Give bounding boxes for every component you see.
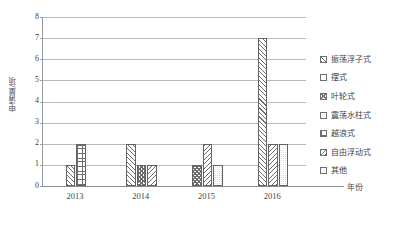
bar-chart: 申请量/项 012345678 2013201420152016 年份 振荡浮子…: [0, 0, 411, 227]
legend-item-label: 摆式: [331, 73, 347, 82]
bar: [147, 165, 157, 186]
bar: [203, 144, 213, 186]
bar: [126, 144, 136, 186]
legend-item-label: 其他: [331, 166, 347, 175]
y-axis-tick-label: 6: [22, 54, 39, 63]
bar-series-container: [43, 17, 306, 186]
legend-item-label: 越浪式: [331, 129, 355, 138]
diagonal-hatch-swatch: [320, 56, 327, 63]
legend-item-label: 振荡浮子式: [331, 55, 371, 64]
y-axis-tick-label: 7: [22, 33, 39, 42]
gridline: [43, 186, 306, 187]
grid-swatch: [320, 130, 327, 137]
y-axis-tick-mark: [40, 186, 43, 187]
plot-area: [42, 17, 305, 186]
y-axis-tick-label: 4: [22, 96, 39, 105]
bar: [137, 165, 147, 186]
x-axis-extension-line: [305, 186, 344, 187]
x-axis-tick-label: 2015: [198, 191, 215, 201]
bar: [279, 144, 289, 186]
x-axis-tick-label: 2013: [66, 191, 83, 201]
legend-item-label: 震荡水柱式: [331, 111, 371, 120]
legend: 振荡浮子式摆式叶轮式震荡水柱式越浪式自由浮动式其他: [320, 50, 408, 180]
y-axis-tick-label: 2: [22, 138, 39, 147]
crosshatch-check-swatch: [320, 93, 327, 100]
x-axis-tick-labels: 2013201420152016: [42, 191, 305, 205]
legend-item[interactable]: 振荡浮子式: [320, 50, 408, 69]
x-axis-tick-label: 2016: [264, 191, 281, 201]
y-axis-tick-labels: 012345678: [22, 0, 39, 227]
fine-dot-swatch: [320, 112, 327, 119]
legend-item[interactable]: 其他: [320, 162, 408, 181]
open-swatch: [320, 167, 327, 174]
legend-item[interactable]: 越浪式: [320, 124, 408, 143]
legend-item-label: 自由浮动式: [331, 148, 371, 157]
bar: [268, 144, 278, 186]
y-axis-tick-label: 8: [22, 12, 39, 21]
legend-item-label: 叶轮式: [331, 92, 355, 101]
y-axis-tick-label: 0: [22, 181, 39, 190]
y-axis-title: 申请量/项: [9, 77, 22, 112]
legend-item[interactable]: 震荡水柱式: [320, 106, 408, 125]
y-axis-tick-label: 5: [22, 75, 39, 84]
y-axis-tick-label: 3: [22, 117, 39, 126]
x-axis-tick-label: 2014: [132, 191, 149, 201]
bar: [76, 144, 86, 186]
legend-item[interactable]: 摆式: [320, 69, 408, 88]
bar: [258, 38, 268, 186]
bar: [66, 165, 76, 186]
x-axis-title: 年份: [347, 181, 363, 192]
light-open-swatch: [320, 74, 327, 81]
bar: [192, 165, 202, 186]
legend-item[interactable]: 自由浮动式: [320, 143, 408, 162]
bar: [213, 165, 223, 186]
back-diagonal-hatch-swatch: [320, 149, 327, 156]
legend-item[interactable]: 叶轮式: [320, 87, 408, 106]
y-axis-tick-label: 1: [22, 159, 39, 168]
